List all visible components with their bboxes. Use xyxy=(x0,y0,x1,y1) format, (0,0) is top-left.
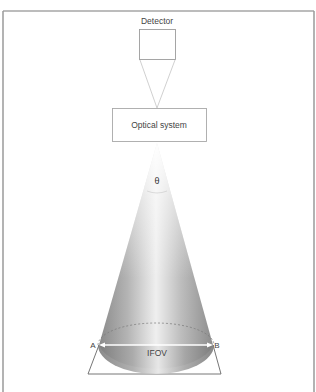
angle-theta-label: θ xyxy=(154,176,159,186)
optical-system: Optical system xyxy=(113,109,207,142)
point-a-label: A xyxy=(90,341,96,350)
detector-ray-lines xyxy=(140,60,175,108)
ifov-diagram: Detector Optical system xyxy=(0,0,316,392)
ifov-label: IFOV xyxy=(147,348,167,358)
optical-system-label: Optical system xyxy=(131,120,187,130)
detector: Detector xyxy=(140,16,176,60)
detector-label: Detector xyxy=(141,16,173,26)
point-b-label: B xyxy=(214,341,219,350)
detector-box xyxy=(140,30,176,60)
